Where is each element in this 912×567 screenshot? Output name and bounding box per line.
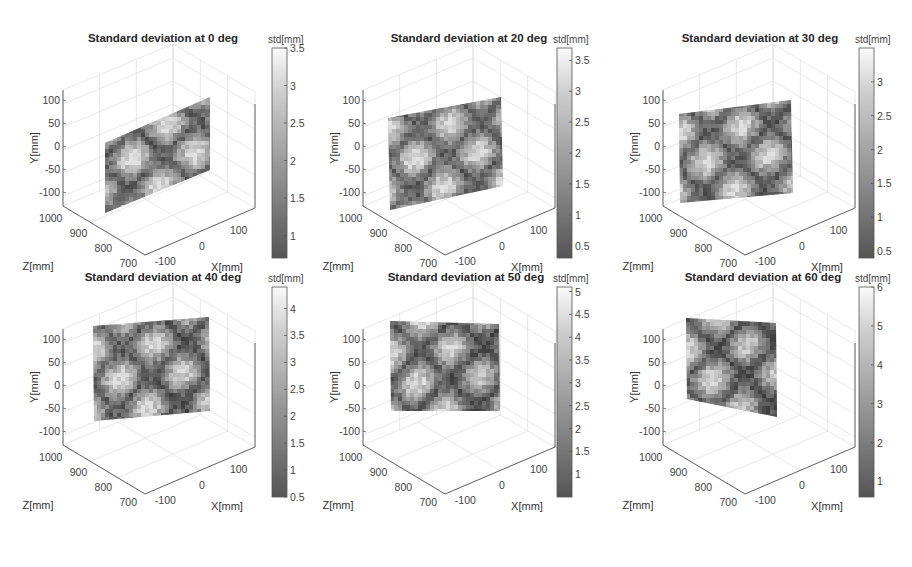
- colorbar-tick-label: 4: [575, 331, 581, 343]
- colorbar-tick-label: 3: [575, 85, 581, 97]
- subplot-4: Standard deviation at 50 deg100500-50-10…: [300, 262, 600, 542]
- y-tick-label: 0: [654, 140, 660, 152]
- y-tick-label: 0: [654, 379, 660, 391]
- colorbar-tick-label: 3.5: [575, 354, 590, 366]
- y-tick-label: -100: [339, 425, 360, 437]
- y-tick-label: -100: [39, 425, 60, 437]
- y-tick-label: -100: [639, 425, 660, 437]
- y-tick-label: -50: [345, 163, 360, 175]
- y-axis-label: Y[mm]: [28, 371, 40, 403]
- z-tick-label: 700: [719, 496, 737, 508]
- y-tick-label: 50: [48, 356, 60, 368]
- colorbar-tick-label: 2: [290, 410, 296, 422]
- y-tick-label: 0: [354, 379, 360, 391]
- y-tick-label: -50: [645, 163, 660, 175]
- y-tick-label: 50: [648, 117, 660, 129]
- y-tick-label: -50: [645, 402, 660, 414]
- colorbar: [859, 287, 874, 497]
- x-tick-label: 0: [199, 479, 205, 491]
- z-tick-label: 1000: [639, 451, 663, 463]
- colorbar-tick-label: 3: [575, 377, 581, 389]
- std-surface: [388, 97, 504, 213]
- colorbar-tick-label: 1: [290, 464, 296, 476]
- std-surface: [93, 317, 213, 421]
- colorbar-tick-label: 2.5: [575, 116, 590, 128]
- y-tick-label: -50: [345, 402, 360, 414]
- z-tick-label: 800: [95, 481, 113, 493]
- y-tick-label: 50: [648, 356, 660, 368]
- colorbar-label: std[mm]: [268, 273, 304, 284]
- colorbar-tick-label: 1.5: [575, 445, 590, 457]
- colorbar-tick-label: 4.5: [575, 308, 590, 320]
- y-tick-label: 0: [54, 379, 60, 391]
- colorbar-tick-label: 1: [877, 211, 883, 223]
- colorbar-tick-label: 3.5: [575, 54, 590, 66]
- colorbar-tick-label: 2: [877, 437, 883, 449]
- colorbar-tick-label: 1: [575, 468, 581, 480]
- y-tick-label: 0: [354, 140, 360, 152]
- y-axis-label: Y[mm]: [328, 132, 340, 164]
- y-tick-label: -100: [339, 186, 360, 198]
- x-tick-label: 100: [530, 463, 548, 475]
- y-axis-label: Y[mm]: [628, 132, 640, 164]
- z-tick-label: 700: [419, 496, 437, 508]
- colorbar-label: std[mm]: [855, 273, 891, 284]
- axes-3d: 100500-50-100Y[mm]1000900800700Z[mm]-100…: [0, 262, 300, 547]
- z-tick-label: 900: [370, 466, 388, 478]
- y-tick-label: 100: [642, 94, 660, 106]
- x-tick-label: 0: [499, 479, 505, 491]
- y-tick-label: 50: [48, 117, 60, 129]
- std-surface: [390, 321, 502, 413]
- y-axis-label: Y[mm]: [628, 371, 640, 403]
- axes-3d: 100500-50-100Y[mm]1000900800700Z[mm]-100…: [300, 262, 600, 547]
- y-tick-label: 100: [42, 94, 60, 106]
- colorbar-tick-label: 2: [877, 144, 883, 156]
- x-tick-label: 0: [499, 240, 505, 252]
- z-tick-label: 900: [670, 227, 688, 239]
- z-tick-label: 1000: [339, 212, 363, 224]
- colorbar-tick-label: 3: [290, 356, 296, 368]
- colorbar-tick-label: 1.5: [877, 177, 892, 189]
- subplot-5: Standard deviation at 60 deg100500-50-10…: [600, 262, 900, 542]
- x-tick-label: 100: [830, 224, 848, 236]
- y-tick-label: -50: [45, 402, 60, 414]
- colorbar-tick-label: 3: [877, 76, 883, 88]
- y-tick-label: -100: [39, 186, 60, 198]
- x-tick-label: -100: [755, 494, 776, 506]
- z-tick-label: 900: [70, 227, 88, 239]
- x-axis-label: X[mm]: [511, 500, 543, 512]
- z-tick-label: 800: [95, 242, 113, 254]
- z-tick-label: 1000: [39, 451, 63, 463]
- colorbar-tick-label: 1: [877, 475, 883, 487]
- z-tick-label: 900: [70, 466, 88, 478]
- y-tick-label: 0: [54, 140, 60, 152]
- z-tick-label: 900: [670, 466, 688, 478]
- y-tick-label: 100: [342, 333, 360, 345]
- z-tick-label: 1000: [639, 212, 663, 224]
- colorbar-tick-label: 3: [290, 80, 296, 92]
- z-tick-label: 1000: [39, 212, 63, 224]
- y-tick-label: 100: [42, 333, 60, 345]
- colorbar-label: std[mm]: [268, 34, 304, 45]
- x-tick-label: 0: [799, 240, 805, 252]
- colorbar: [859, 48, 874, 258]
- colorbar: [272, 287, 287, 497]
- std-surface: [105, 97, 213, 213]
- colorbar-tick-label: 2: [575, 423, 581, 435]
- colorbar-tick-label: 4: [877, 359, 883, 371]
- colorbar-label: std[mm]: [553, 273, 589, 284]
- x-axis-label: X[mm]: [211, 500, 243, 512]
- z-tick-label: 800: [695, 481, 713, 493]
- x-axis-label: X[mm]: [811, 500, 843, 512]
- z-axis-label: Z[mm]: [322, 499, 353, 511]
- colorbar: [272, 48, 287, 258]
- y-tick-label: 50: [348, 117, 360, 129]
- x-tick-label: 100: [230, 463, 248, 475]
- axes-3d: 100500-50-100Y[mm]1000900800700Z[mm]-100…: [600, 262, 900, 547]
- colorbar-tick-label: 0.5: [877, 245, 892, 257]
- colorbar-tick-label: 1: [290, 230, 296, 242]
- subplot-3: Standard deviation at 40 deg100500-50-10…: [0, 262, 300, 542]
- colorbar: [557, 287, 572, 497]
- y-tick-label: -100: [639, 186, 660, 198]
- z-axis-label: Z[mm]: [622, 499, 653, 511]
